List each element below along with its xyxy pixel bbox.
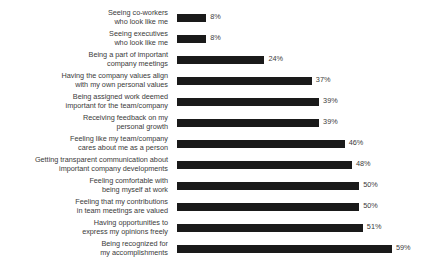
bar-value-label: 46% bbox=[349, 139, 364, 148]
bar-plot-area: 48% bbox=[177, 154, 431, 175]
bar bbox=[177, 98, 319, 106]
chart-row: Seeing co-workers who look like me8% bbox=[0, 7, 431, 28]
bar-value-label: 48% bbox=[356, 160, 371, 169]
bar bbox=[177, 161, 352, 169]
bar-value-label: 51% bbox=[367, 223, 382, 232]
chart-row: Getting transparent communication about … bbox=[0, 154, 431, 175]
bar-plot-area: 50% bbox=[177, 175, 431, 196]
bar-category-label: Being recognized for my accomplishments bbox=[0, 240, 177, 257]
chart-row: Being a part of important company meetin… bbox=[0, 49, 431, 70]
bar-category-label: Having the company values align with my … bbox=[0, 72, 177, 89]
bar-category-label: Feeling comfortable with being myself at… bbox=[0, 177, 177, 194]
bar-plot-area: 50% bbox=[177, 196, 431, 217]
bar-plot-area: 8% bbox=[177, 28, 431, 49]
bar-category-label: Receiving feedback on my personal growth bbox=[0, 114, 177, 131]
bar-value-label: 8% bbox=[210, 34, 221, 43]
bar-value-label: 39% bbox=[323, 118, 338, 127]
bar-category-label: Getting transparent communication about … bbox=[0, 156, 177, 173]
bar bbox=[177, 56, 264, 64]
bar-value-label: 50% bbox=[363, 202, 378, 211]
bar-plot-area: 59% bbox=[177, 238, 431, 259]
bar-plot-area: 39% bbox=[177, 112, 431, 133]
bar bbox=[177, 224, 363, 232]
bar-category-label: Feeling that my contributions in team me… bbox=[0, 198, 177, 215]
bar bbox=[177, 140, 345, 148]
chart-row: Having the company values align with my … bbox=[0, 70, 431, 91]
bar-category-label: Feeling like my team/company cares about… bbox=[0, 135, 177, 152]
bar-plot-area: 46% bbox=[177, 133, 431, 154]
bar-value-label: 8% bbox=[210, 13, 221, 22]
bar bbox=[177, 203, 359, 211]
bar bbox=[177, 77, 312, 85]
bar-category-label: Being a part of important company meetin… bbox=[0, 51, 177, 68]
chart-row: Being assigned work deemed important for… bbox=[0, 91, 431, 112]
bar-category-label: Seeing executives who look like me bbox=[0, 30, 177, 47]
chart-row: Being recognized for my accomplishments5… bbox=[0, 238, 431, 259]
chart-row: Receiving feedback on my personal growth… bbox=[0, 112, 431, 133]
bar-category-label: Being assigned work deemed important for… bbox=[0, 93, 177, 110]
chart-row: Having opportunities to express my opini… bbox=[0, 217, 431, 238]
bar-plot-area: 39% bbox=[177, 91, 431, 112]
bar-value-label: 59% bbox=[396, 244, 411, 253]
bar-category-label: Seeing co-workers who look like me bbox=[0, 9, 177, 26]
bar-value-label: 50% bbox=[363, 181, 378, 190]
bar bbox=[177, 245, 392, 253]
bar-value-label: 24% bbox=[268, 55, 283, 64]
chart-rows: Seeing co-workers who look like me8%Seei… bbox=[0, 7, 431, 259]
bar-value-label: 37% bbox=[316, 76, 331, 85]
bar-plot-area: 37% bbox=[177, 70, 431, 91]
chart-row: Feeling that my contributions in team me… bbox=[0, 196, 431, 217]
bar-plot-area: 8% bbox=[177, 7, 431, 28]
bar-plot-area: 24% bbox=[177, 49, 431, 70]
chart-row: Seeing executives who look like me8% bbox=[0, 28, 431, 49]
bar bbox=[177, 119, 319, 127]
chart-row: Feeling like my team/company cares about… bbox=[0, 133, 431, 154]
bar-category-label: Having opportunities to express my opini… bbox=[0, 219, 177, 236]
bar bbox=[177, 14, 206, 22]
bar bbox=[177, 35, 206, 43]
horizontal-bar-chart: Seeing co-workers who look like me8%Seei… bbox=[0, 0, 431, 277]
bar-plot-area: 51% bbox=[177, 217, 431, 238]
chart-row: Feeling comfortable with being myself at… bbox=[0, 175, 431, 196]
bar-value-label: 39% bbox=[323, 97, 338, 106]
bar bbox=[177, 182, 359, 190]
